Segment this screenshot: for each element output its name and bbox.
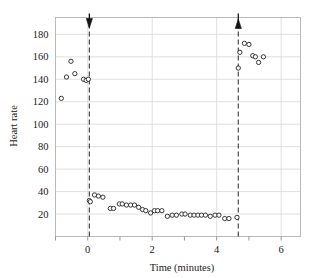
y-tick-label: 20: [38, 209, 49, 220]
data-point: [217, 213, 221, 217]
event-annotation-lines: [86, 14, 241, 237]
data-point: [183, 212, 187, 216]
plot-frame: [56, 18, 301, 237]
data-point: [73, 72, 77, 76]
data-point: [132, 203, 136, 207]
data-point: [203, 213, 207, 217]
y-gridlines: [56, 34, 301, 214]
data-point: [59, 96, 63, 100]
data-point: [242, 41, 246, 45]
data-point: [253, 55, 257, 59]
data-point: [101, 195, 105, 199]
data-point: [111, 206, 115, 210]
y-axis-title: Heart rate: [8, 105, 19, 147]
data-point: [170, 213, 174, 217]
y-tick-label: 180: [33, 29, 49, 40]
data-point: [160, 209, 164, 213]
heart-rate-scatter-figure: 20406080100120140160180 0246 Heart rate …: [0, 0, 316, 278]
data-point: [120, 202, 124, 206]
x-tick-label: 6: [279, 244, 284, 255]
x-tick-label: 4: [214, 244, 220, 255]
data-point-group: [59, 41, 265, 221]
y-tick-label: 100: [33, 119, 49, 130]
y-tick-label: 160: [33, 51, 49, 62]
data-point: [88, 200, 92, 204]
chart-canvas: 20406080100120140160180 0246 Heart rate …: [0, 0, 316, 278]
x-axis-title: Time (minutes): [150, 262, 215, 274]
data-point: [227, 216, 231, 220]
data-point: [86, 77, 90, 81]
data-point: [69, 59, 73, 63]
x-tick-label: 2: [150, 244, 155, 255]
y-tick-label: 60: [38, 164, 49, 175]
data-point: [256, 60, 260, 64]
data-point: [174, 213, 178, 217]
y-tick-label: 40: [38, 186, 49, 197]
data-point: [236, 66, 240, 70]
data-point: [223, 216, 227, 220]
x-tickmarks: [56, 237, 282, 241]
data-point: [124, 203, 128, 207]
data-point: [261, 55, 265, 59]
x-tick-label: 0: [85, 244, 90, 255]
data-point: [247, 42, 251, 46]
y-tick-labels: 20406080100120140160180: [33, 29, 49, 220]
y-tick-label: 120: [33, 96, 49, 107]
data-point: [96, 194, 100, 198]
data-point: [165, 214, 169, 218]
data-point: [208, 214, 212, 218]
data-point: [238, 50, 242, 54]
data-point: [235, 215, 239, 219]
data-point: [144, 209, 148, 213]
x-tick-labels: 0246: [85, 244, 284, 255]
data-point: [64, 75, 68, 79]
data-point: [156, 209, 160, 213]
y-tick-label: 140: [33, 74, 49, 85]
y-tick-label: 80: [38, 141, 49, 152]
